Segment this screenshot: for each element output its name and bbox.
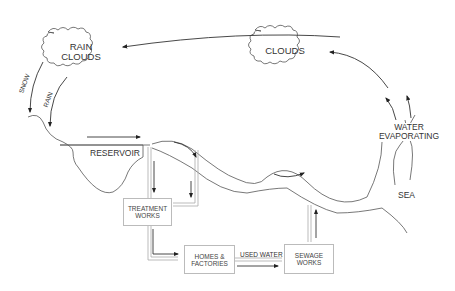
homes-factories-box: HOMES &FACTORIES xyxy=(184,245,235,274)
homes-line2: FACTORIES xyxy=(191,260,228,267)
arrow-evap-2 xyxy=(407,96,411,118)
clouds-label: CLOUDS xyxy=(262,46,308,56)
homes-line1: HOMES & xyxy=(191,253,228,260)
arrow-rain xyxy=(50,77,67,126)
sewage-line1: SEWAGE xyxy=(295,252,323,259)
rain-clouds-label: RAIN CLOUDS xyxy=(58,42,104,62)
evaporation-label: WATER EVAPORATING xyxy=(378,123,440,141)
arrow-to-homes xyxy=(153,229,178,254)
treatment-line2: WORKS xyxy=(128,212,167,219)
arrow-evap-1 xyxy=(386,98,396,120)
sewage-line2: WORKS xyxy=(295,259,323,266)
rain-clouds-line2: CLOUDS xyxy=(58,52,104,62)
treatment-line1: TREATMENT xyxy=(128,205,167,212)
treatment-works-box: TREATMENTWORKS xyxy=(123,198,172,226)
reservoir-label: RESERVOIR xyxy=(90,149,140,158)
sewage-works-box: SEWAGEWORKS xyxy=(284,244,334,274)
sea-label: SEA xyxy=(398,191,415,200)
used-water-label: USED WATER xyxy=(240,251,283,258)
river-lower-bank xyxy=(152,148,407,233)
river-upper-bank xyxy=(152,141,382,202)
evaporation-line2: EVAPORATING xyxy=(378,132,440,141)
arrow-evaporation-to-clouds xyxy=(330,52,388,88)
